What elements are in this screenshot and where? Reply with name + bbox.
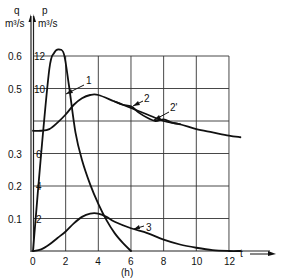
curve-label-2-prime: 2' [170, 102, 178, 113]
curve-label-1: 1 [86, 75, 92, 86]
curve-1 [33, 49, 131, 251]
q-unit: m³/s [5, 18, 24, 29]
x-tick-label: 6 [128, 256, 134, 267]
curve-label-3: 3 [146, 222, 152, 233]
curve-label-2: 2 [144, 93, 150, 104]
curve-2 [33, 94, 240, 137]
x-tick-label: 0 [30, 256, 36, 267]
q-tick-label: 0.2 [8, 181, 22, 192]
x-tick-label: 2 [63, 256, 69, 267]
p-tick-label: 12 [34, 51, 46, 62]
q-axis-arrow-icon [29, 14, 32, 22]
p-tick-label: 10 [34, 84, 46, 95]
axis-labels: q m³/s p m³/s t (h) [5, 5, 243, 278]
x-tick-label: 10 [191, 256, 203, 267]
p-unit: m³/s [38, 18, 57, 29]
grid-lines [33, 56, 229, 251]
q-tick-label: 0.6 [8, 51, 22, 62]
curves [33, 49, 240, 251]
x-tick-label: 8 [161, 256, 167, 267]
q-symbol: q [14, 5, 20, 16]
x-axis-unit: (h) [121, 267, 133, 278]
tick-labels: 0246810120.10.20.30.50.62461012 [8, 51, 236, 267]
t-symbol: t [240, 248, 243, 259]
hydrograph-chart: q m³/s p m³/s t (h) 0246810120.10.20.30.… [0, 0, 287, 280]
q-tick-label: 0.1 [8, 214, 22, 225]
p-tick-label: 2 [36, 214, 42, 225]
p-symbol: p [42, 5, 48, 16]
x-tick-label: 12 [224, 256, 236, 267]
q-tick-label: 0.3 [8, 149, 22, 160]
p-axis-arrow-icon [34, 14, 37, 22]
x-tick-label: 4 [95, 256, 101, 267]
q-tick-label: 0.5 [8, 84, 22, 95]
t-axis-arrow-icon [268, 251, 276, 256]
